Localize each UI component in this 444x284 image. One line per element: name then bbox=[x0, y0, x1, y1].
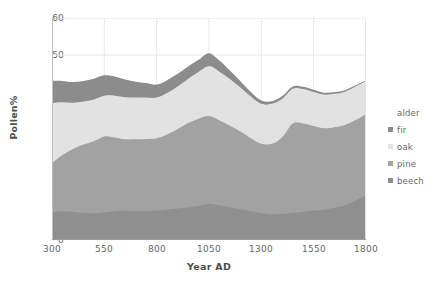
legend-swatch-oak-icon bbox=[388, 144, 393, 149]
legend-item-fir[interactable]: fir bbox=[388, 121, 444, 138]
stacked-area-plot bbox=[52, 18, 366, 240]
legend-label-oak: oak bbox=[397, 142, 413, 152]
x-tick-1050: 1050 bbox=[186, 244, 232, 254]
legend-label-pine: pine bbox=[397, 159, 416, 169]
legend-item-oak[interactable]: oak bbox=[388, 138, 444, 155]
plot-area bbox=[52, 18, 366, 240]
x-tick-1800: 1800 bbox=[343, 244, 389, 254]
y-axis-title: Pollen% bbox=[8, 83, 19, 153]
legend-label-alder: alder bbox=[397, 108, 420, 118]
area-bands bbox=[52, 53, 366, 240]
x-tick-1300: 1300 bbox=[238, 244, 284, 254]
legend-swatch-alder-icon bbox=[388, 110, 393, 115]
pollen-percentage-stacked-area-chart: 60 50 40 30 20 10 0 Pollen% 300 550 800 … bbox=[0, 0, 444, 284]
legend-swatch-pine-icon bbox=[388, 161, 393, 166]
legend-swatch-beech-icon bbox=[388, 178, 393, 183]
x-tick-800: 800 bbox=[134, 244, 180, 254]
legend-label-beech: beech bbox=[397, 176, 424, 186]
x-axis-title: Year AD bbox=[52, 261, 366, 272]
x-tick-1550: 1550 bbox=[291, 244, 337, 254]
x-tick-550: 550 bbox=[81, 244, 127, 254]
chart-legend: alderfiroakpinebeech bbox=[388, 104, 444, 189]
legend-item-beech[interactable]: beech bbox=[388, 172, 444, 189]
legend-item-alder[interactable]: alder bbox=[388, 104, 444, 121]
legend-item-pine[interactable]: pine bbox=[388, 155, 444, 172]
legend-swatch-fir-icon bbox=[388, 127, 393, 132]
x-tick-300: 300 bbox=[29, 244, 75, 254]
legend-label-fir: fir bbox=[397, 125, 406, 135]
